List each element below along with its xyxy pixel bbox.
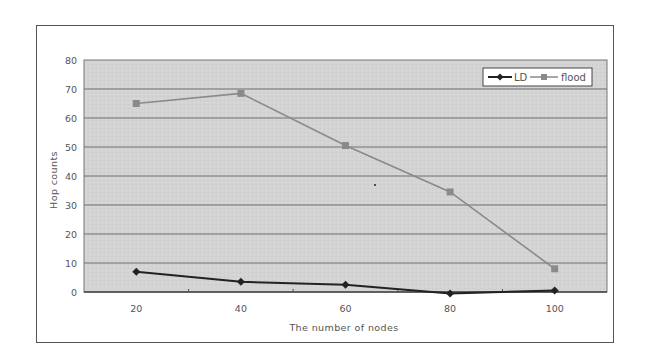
- data-point-flood: [551, 265, 558, 272]
- y-tick-label: 80: [65, 55, 77, 66]
- y-tick-label: 50: [65, 142, 77, 153]
- y-tick-label: 60: [65, 113, 77, 124]
- y-tick-label: 40: [65, 171, 77, 182]
- stray-dot: [374, 184, 376, 186]
- x-axis-title: The number of nodes: [288, 322, 398, 333]
- legend: LD flood: [483, 68, 592, 86]
- x-tick-label: 60: [339, 303, 351, 314]
- x-tick-label: 40: [235, 303, 247, 314]
- data-point-flood: [342, 142, 349, 149]
- square-marker-icon: [541, 74, 547, 80]
- legend-label-flood: flood: [561, 72, 586, 83]
- line-chart: 01020304050607080 20406080100 Hop counts…: [0, 0, 649, 363]
- y-axis-ticks: 01020304050607080: [65, 55, 77, 298]
- x-tick-label: 20: [130, 303, 142, 314]
- y-tick-label: 70: [65, 84, 77, 95]
- legend-label-ld: LD: [514, 72, 528, 83]
- data-point-flood: [237, 90, 244, 97]
- y-tick-label: 0: [71, 287, 77, 298]
- x-tick-label: 80: [444, 303, 456, 314]
- y-tick-label: 20: [65, 229, 77, 240]
- data-point-flood: [133, 100, 140, 107]
- x-tick-label: 100: [546, 303, 564, 314]
- y-tick-label: 30: [65, 200, 77, 211]
- data-point-flood: [447, 188, 454, 195]
- x-axis-ticks: 20406080100: [84, 289, 607, 314]
- y-tick-label: 10: [65, 258, 77, 269]
- y-axis-title: Hop counts: [48, 151, 59, 209]
